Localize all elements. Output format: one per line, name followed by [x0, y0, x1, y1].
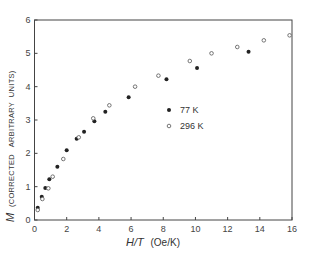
- y-tick-label: 2: [25, 148, 30, 158]
- point-296k: [288, 34, 292, 38]
- point-77k: [195, 66, 199, 70]
- point-296k: [235, 45, 239, 49]
- x-tick-label: 4: [96, 224, 101, 234]
- magnetization-scatter-chart: 0246810121416 0123456 77 K 296 K H/T (Oe…: [0, 0, 314, 254]
- point-296k: [133, 85, 137, 89]
- y-axis-units: (CORRECTED ARBITRARY UNITS): [7, 70, 16, 207]
- data-points: [36, 34, 292, 212]
- point-296k: [41, 197, 45, 201]
- x-tick-label: 10: [190, 224, 200, 234]
- x-axis-title: H/T (Oe/K): [126, 236, 180, 248]
- y-tick-label: 1: [25, 182, 30, 192]
- svg-text:M (CORRECTED ARBITRARY: M (CORRECTED ARBITRARY UNITS): [4, 70, 16, 222]
- point-296k: [62, 157, 66, 161]
- y-tick-label: 0: [25, 215, 30, 225]
- point-296k: [157, 74, 161, 78]
- x-tick-label: 6: [129, 224, 134, 234]
- x-tick-label: 8: [161, 224, 166, 234]
- point-77k: [164, 77, 168, 81]
- point-77k: [127, 95, 131, 99]
- point-77k: [47, 177, 51, 181]
- point-296k: [47, 187, 51, 191]
- x-tick-label: 12: [223, 224, 233, 234]
- point-296k: [108, 104, 112, 108]
- legend-marker-296k: [167, 124, 171, 128]
- point-296k: [91, 117, 95, 121]
- point-77k: [65, 148, 69, 152]
- point-296k: [210, 52, 214, 56]
- svg-text:H/T (Oe/K): H/T (Oe/K): [126, 236, 180, 248]
- point-77k: [55, 165, 59, 169]
- point-296k: [77, 136, 81, 140]
- point-296k: [188, 59, 192, 63]
- point-77k: [103, 110, 107, 114]
- y-tick-label: 5: [25, 48, 30, 58]
- point-296k: [262, 39, 266, 43]
- y-axis-symbol: M: [4, 212, 16, 222]
- point-296k: [51, 175, 55, 179]
- legend-label-77k: 77 K: [180, 105, 199, 115]
- point-296k: [36, 208, 40, 212]
- x-axis-units: (Oe/K): [151, 237, 180, 248]
- point-77k: [247, 50, 251, 54]
- legend-label-296k: 296 K: [180, 121, 204, 131]
- plot-frame: [35, 20, 293, 220]
- y-tick-label: 3: [25, 115, 30, 125]
- x-axis-symbol: H/T: [126, 236, 145, 248]
- point-77k: [82, 130, 86, 134]
- x-tick-label: 14: [255, 224, 265, 234]
- y-tick-label: 6: [25, 15, 30, 25]
- x-tick-label: 2: [64, 224, 69, 234]
- x-tick-label: 16: [287, 224, 297, 234]
- y-axis-title: M (CORRECTED ARBITRARY UNITS): [4, 70, 16, 222]
- legend-marker-77k: [167, 108, 171, 112]
- legend: 77 K 296 K: [167, 105, 204, 131]
- x-tick-label: 0: [32, 224, 37, 234]
- y-axis-ticks: 0123456: [25, 15, 37, 225]
- y-tick-label: 4: [25, 82, 30, 92]
